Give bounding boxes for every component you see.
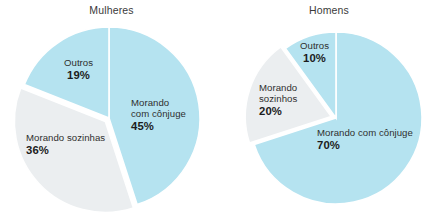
- slice-label-mulheres-conjuge: Morando com cônjuge 45%: [131, 97, 186, 133]
- slice-value-text: 20%: [259, 105, 297, 118]
- chart-panel-mulheres: Mulheres: [0, 0, 219, 219]
- slice-label-text: Morando sozinhas: [26, 132, 105, 143]
- slice-label-mulheres-sozinhas: Morando sozinhas 36%: [26, 132, 105, 157]
- slice-label-text: Morando: [131, 97, 186, 108]
- slice-value-text: 10%: [300, 52, 329, 65]
- chart-title-mulheres: Mulheres: [0, 4, 219, 16]
- chart-title-homens: Homens: [219, 4, 437, 16]
- slice-label-text: com cônjuge: [131, 108, 186, 119]
- slice-label-text: Outros: [300, 40, 329, 51]
- slice-label-homens-conjuge: Morando com cônjuge 70%: [317, 127, 413, 152]
- slice-value-text: 36%: [26, 144, 105, 157]
- slice-value-text: 45%: [131, 120, 186, 133]
- slice-label-text: sozinhos: [259, 93, 297, 104]
- pie-chart-figure: Mulheres Morando com cônjuge 45% Morando…: [0, 0, 437, 219]
- slice-label-text: Outros: [64, 57, 93, 68]
- slice-label-text: Morando: [259, 82, 297, 93]
- slice-label-homens-sozinhos: Morando sozinhos 20%: [259, 82, 297, 118]
- slice-value-text: 19%: [64, 69, 93, 82]
- slice-label-text: Morando com cônjuge: [317, 127, 413, 138]
- chart-panel-homens: Homens: [219, 0, 437, 219]
- slice-label-homens-outros: Outros 10%: [300, 40, 329, 65]
- slice-label-mulheres-outros: Outros 19%: [64, 57, 93, 82]
- slice-value-text: 70%: [317, 139, 413, 152]
